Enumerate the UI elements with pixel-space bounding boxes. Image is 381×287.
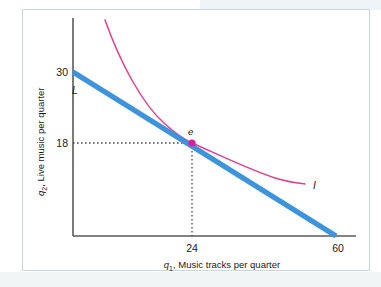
budget-line-label: L [72,84,78,96]
x-tick-label-60: 60 [332,242,344,254]
indifference-curve [105,20,305,184]
y-tick-label-18: 18 [56,137,68,149]
y-axis-caption-text: , Live music per quarter [35,88,46,187]
x-axis-caption-text: , Music tracks per quarter [173,259,280,270]
chart-canvas: L I e 30 18 24 60 q1, Music tracks per q… [0,0,381,287]
x-tick-label-24: 24 [186,242,198,254]
optimum-point-marker [188,139,195,146]
y-tick-label-30: 30 [56,66,68,78]
x-axis-caption: q1, Music tracks per quarter [164,259,280,272]
optimum-point-label: e [188,126,193,137]
indifference-curve-label: I [313,179,316,191]
y-axis-caption: q2, Live music per quarter [35,88,48,196]
budget-line [73,72,336,236]
